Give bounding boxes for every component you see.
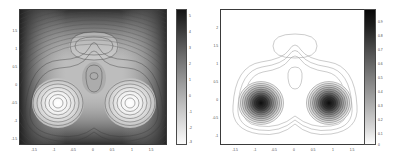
left-xtick-5: 1 — [131, 149, 133, 152]
right-cbar-tick-8: 0.1 — [378, 133, 382, 136]
right-xtick-5: 1 — [332, 149, 334, 152]
right-xtick-3: 0 — [293, 149, 295, 152]
left-xtick-6: 1.5 — [149, 149, 153, 152]
right-ytick-4: 0 — [204, 99, 218, 102]
left-colorbar — [176, 9, 187, 145]
right-cbar-tick-2: 0.7 — [378, 49, 382, 52]
right-contour-panel: -1.5 -1 -0.5 0 0.5 1 1.5 2 1.5 1 0.5 0 -… — [198, 0, 397, 164]
right-ytick-3: 0.5 — [204, 81, 218, 84]
right-xtick-2: -0.5 — [271, 149, 276, 152]
left-ytick-2: 0.5 — [4, 66, 17, 69]
right-ytick-2: 1 — [204, 63, 218, 66]
left-xtick-2: -0.5 — [70, 149, 75, 152]
left-cbar-tick-4: 1 — [189, 79, 191, 82]
left-xtick-4: 0.5 — [110, 149, 114, 152]
left-xtick-1: -1 — [53, 149, 56, 152]
right-cbar-tick-9: 0 — [378, 144, 380, 147]
left-cbar-tick-2: 3 — [189, 47, 191, 50]
left-colorbar-gradient — [177, 10, 186, 144]
left-ytick-0: 1.5 — [4, 30, 17, 33]
left-cbar-tick-8: -3 — [189, 141, 192, 144]
left-contour-panel: -1.5 -1 -0.5 0 0.5 1 1.5 1.5 1 0.5 0 -0.… — [0, 0, 199, 164]
right-xtick-6: 1.5 — [350, 149, 354, 152]
left-cbar-tick-1: 4 — [189, 31, 191, 34]
right-ytick-5: -0.5 — [204, 117, 218, 120]
right-cbar-tick-7: 0.2 — [378, 119, 382, 122]
left-xtick-0: -1.5 — [31, 149, 36, 152]
left-cbar-tick-6: -1 — [189, 111, 192, 114]
left-cbar-tick-5: 0 — [189, 95, 191, 98]
left-ytick-5: -1 — [4, 120, 17, 123]
right-cbar-tick-5: 0.4 — [378, 91, 382, 94]
right-ytick-1: 1.5 — [204, 45, 218, 48]
left-cbar-tick-3: 2 — [189, 63, 191, 66]
right-cbar-tick-4: 0.5 — [378, 77, 382, 80]
right-colorbar-gradient — [365, 10, 375, 144]
left-plot-axes — [19, 9, 167, 145]
left-ytick-6: -1.5 — [4, 138, 17, 141]
right-cbar-tick-1: 0.8 — [378, 35, 382, 38]
right-cbar-tick-0: 0.9 — [378, 21, 382, 24]
right-xtick-4: 0.5 — [311, 149, 315, 152]
left-cbar-tick-0: 5 — [189, 15, 191, 18]
right-cbar-tick-3: 0.6 — [378, 63, 382, 66]
right-plot-axes — [220, 9, 368, 145]
left-xtick-3: 0 — [92, 149, 94, 152]
right-cbar-tick-6: 0.3 — [378, 105, 382, 108]
figure-root: -1.5 -1 -0.5 0 0.5 1 1.5 1.5 1 0.5 0 -0.… — [0, 0, 397, 164]
right-ytick-6: -1 — [204, 135, 218, 138]
right-contour-canvas — [221, 10, 368, 145]
right-xtick-0: -1.5 — [232, 149, 237, 152]
left-cbar-tick-7: -2 — [189, 127, 192, 130]
left-ytick-4: -0.5 — [4, 102, 17, 105]
right-xtick-1: -1 — [254, 149, 257, 152]
right-ytick-0: 2 — [204, 27, 218, 30]
left-contour-canvas — [20, 10, 167, 145]
left-ytick-1: 1 — [4, 48, 17, 51]
left-ytick-3: 0 — [4, 84, 17, 87]
right-colorbar — [364, 9, 376, 145]
